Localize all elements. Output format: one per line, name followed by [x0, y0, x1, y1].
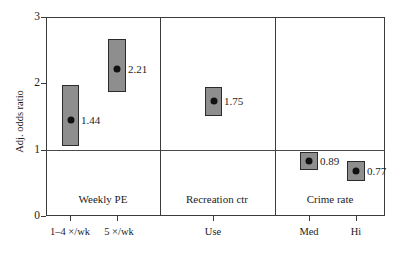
point-dot-weekly-pe-1-4	[67, 117, 74, 124]
x-tick-mark-3	[309, 216, 310, 221]
y-axis-tick-labels: 0 1 2 3	[26, 0, 40, 254]
x-tick-mark-1	[117, 216, 118, 221]
point-label-recreation-ctr-use: 1.75	[224, 96, 243, 107]
point-label-weekly-pe-1-4: 1.44	[81, 115, 100, 126]
forest-plot-figure: Adj. odds ratio 0 1 2 3 1.44 2.21 1.75 0…	[0, 0, 404, 254]
group-title-weekly-pe: Weekly PE	[79, 193, 128, 205]
y-tick-label-1: 1	[34, 144, 40, 156]
x-tick-label-recreation-ctr-use: Use	[205, 226, 221, 237]
ci-box-weekly-pe-1-4	[62, 85, 79, 146]
point-dot-recreation-ctr-use	[210, 98, 217, 105]
group-title-recreation-ctr: Recreation ctr	[186, 193, 248, 205]
x-tick-mark-2	[213, 216, 214, 221]
y-tick-label-2: 2	[34, 77, 40, 89]
x-tick-label-weekly-pe-1-4: 1–4 ×/wk	[50, 226, 90, 237]
panel-divider-2	[275, 17, 276, 216]
point-label-crime-rate-hi: 0.77	[367, 166, 386, 177]
x-tick-label-crime-rate-hi: Hi	[351, 226, 362, 237]
y-axis-title: Adj. odds ratio	[14, 57, 25, 187]
point-label-weekly-pe-5: 2.21	[128, 64, 147, 75]
point-dot-crime-rate-hi	[353, 168, 360, 175]
point-label-crime-rate-med: 0.89	[320, 156, 339, 167]
group-title-crime-rate: Crime rate	[307, 193, 354, 205]
x-tick-label-weekly-pe-5: 5 ×/wk	[104, 226, 134, 237]
y-tick-mark-0	[41, 216, 46, 217]
y-tick-label-0: 0	[34, 210, 40, 222]
x-tick-label-crime-rate-med: Med	[299, 226, 318, 237]
panel-divider-1	[160, 17, 161, 216]
point-dot-weekly-pe-5	[114, 66, 121, 73]
x-tick-mark-4	[356, 216, 357, 221]
reference-line-or-1	[46, 150, 385, 151]
point-dot-crime-rate-med	[306, 158, 313, 165]
x-tick-mark-0	[70, 216, 71, 221]
y-tick-label-3: 3	[34, 11, 40, 23]
